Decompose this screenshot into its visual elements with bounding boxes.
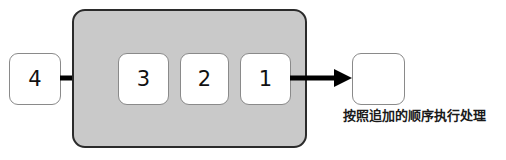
queue-item-box-2: 2	[180, 53, 229, 105]
diagram-caption: 按照追加的顺序执行处理	[343, 108, 503, 124]
queue-item-label-1: 3	[137, 69, 150, 90]
incoming-item-box: 4	[9, 53, 61, 105]
dequeue-arrow-icon	[290, 67, 352, 89]
queue-item-label-2: 2	[198, 69, 211, 90]
queue-item-box-3: 1	[240, 53, 291, 105]
queue-item-box-1: 3	[118, 53, 169, 105]
queue-item-label-3: 1	[259, 69, 272, 90]
outgoing-item-box	[352, 53, 405, 105]
diagram-canvas: 4 3 2 1 按照追加的顺序执行处理	[0, 0, 506, 160]
incoming-item-label: 4	[28, 69, 41, 90]
